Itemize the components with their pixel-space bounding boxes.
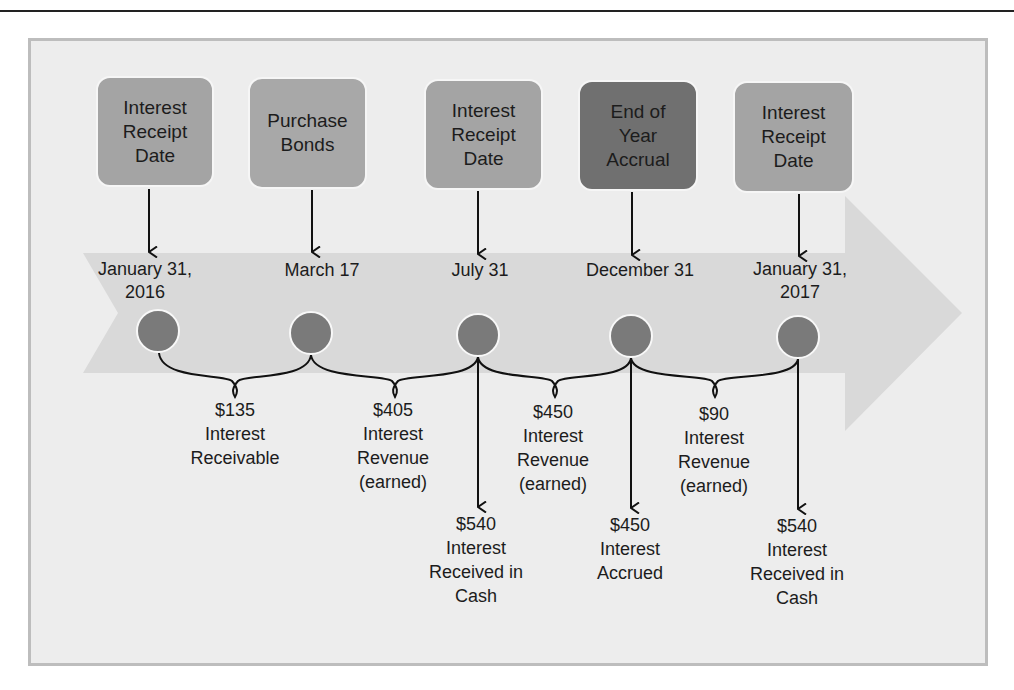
- outcome-label: Interest Received in Cash: [429, 536, 523, 608]
- date-label: December 31: [586, 258, 694, 282]
- timeline-arrow-band: [83, 196, 962, 431]
- period-label: Interest Revenue (earned): [517, 424, 589, 496]
- date-label: March 17: [284, 258, 359, 282]
- period-label: Interest Revenue (earned): [678, 426, 750, 498]
- milestone-dot: [137, 310, 179, 352]
- period-label: $450: [533, 400, 573, 424]
- outcome-label: $540: [777, 514, 817, 538]
- event-box-purchase-bonds: Purchase Bonds: [248, 77, 367, 189]
- date-label: January 31, 2016: [98, 258, 192, 304]
- milestone-dot: [777, 316, 819, 358]
- period-label: $405: [373, 398, 413, 422]
- date-label: January 31, 2017: [753, 258, 847, 304]
- event-box-interest-receipt-july: Interest Receipt Date: [424, 79, 543, 190]
- period-label: Interest Receivable: [190, 422, 279, 470]
- outcome-label: Interest Accrued: [597, 537, 663, 585]
- period-label: $135: [215, 398, 255, 422]
- outcome-label: $450: [610, 513, 650, 537]
- milestone-dot: [290, 312, 332, 354]
- event-box-interest-receipt-2016: Interest Receipt Date: [96, 76, 214, 187]
- box-to-date-arrows: [149, 189, 799, 256]
- event-box-interest-receipt-2017: Interest Receipt Date: [733, 81, 854, 193]
- milestone-dot: [457, 314, 499, 356]
- date-label: July 31: [451, 258, 508, 282]
- event-box-end-of-year-accrual: End of Year Accrual: [578, 80, 698, 191]
- outcome-label: Interest Received in Cash: [750, 538, 844, 610]
- milestone-dot: [610, 315, 652, 357]
- outcome-label: $540: [456, 512, 496, 536]
- period-label: Interest Revenue (earned): [357, 422, 429, 494]
- period-label: $90: [699, 402, 729, 426]
